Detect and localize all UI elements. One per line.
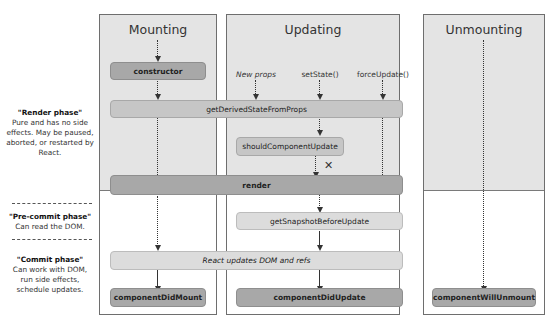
phase-desc-render: Pure and has no side effects. May be pau… bbox=[6, 118, 94, 157]
phase-desc-pre-commit: Can read the DOM. bbox=[15, 222, 85, 231]
column-unmounting: Unmounting bbox=[423, 14, 545, 315]
skip-update-icon: ✕ bbox=[324, 161, 333, 171]
phase-desc-commit: Can work with DOM, run side effects, sch… bbox=[13, 265, 87, 294]
phase-divider bbox=[12, 239, 92, 240]
connector bbox=[382, 80, 383, 94]
connector bbox=[157, 40, 158, 56]
connector bbox=[157, 78, 158, 94]
node-get-snapshot-before-update[interactable]: getSnapshotBeforeUpdate bbox=[236, 212, 403, 230]
connector bbox=[483, 40, 484, 286]
phase-label-render: "Render phase" Pure and has no side effe… bbox=[6, 108, 94, 158]
connector bbox=[382, 117, 383, 175]
connector bbox=[319, 80, 320, 94]
phase-label-commit: "Commit phase" Can work with DOM, run si… bbox=[6, 255, 94, 295]
node-constructor[interactable]: constructor bbox=[110, 62, 206, 80]
node-should-component-update[interactable]: shouldComponentUpdate bbox=[236, 137, 344, 156]
column-title-updating: Updating bbox=[227, 22, 399, 37]
node-get-derived-state-from-props[interactable]: getDerivedStateFromProps bbox=[110, 100, 403, 118]
phase-title-pre-commit: "Pre-commit phase" bbox=[6, 212, 94, 222]
phase-title-commit: "Commit phase" bbox=[6, 255, 94, 265]
arrow-icon bbox=[317, 130, 323, 136]
node-component-did-update[interactable]: componentDidUpdate bbox=[236, 288, 403, 307]
render-phase-area bbox=[424, 15, 544, 191]
phase-divider bbox=[12, 203, 92, 204]
connector bbox=[157, 196, 158, 246]
connector bbox=[319, 117, 320, 130]
node-react-updates-dom[interactable]: React updates DOM and refs bbox=[110, 251, 403, 270]
column-title-mounting: Mounting bbox=[100, 22, 216, 37]
node-render[interactable]: render bbox=[110, 175, 403, 195]
trigger-new-props: New props bbox=[236, 70, 276, 79]
trigger-force-update: forceUpdate() bbox=[357, 70, 409, 79]
connector bbox=[157, 270, 158, 286]
connector bbox=[319, 270, 320, 286]
phase-label-pre-commit: "Pre-commit phase" Can read the DOM. bbox=[6, 212, 94, 232]
node-component-will-unmount[interactable]: componentWillUnmount bbox=[432, 288, 536, 307]
connector bbox=[157, 117, 158, 175]
trigger-set-state: setState() bbox=[301, 70, 338, 79]
connector bbox=[255, 80, 256, 94]
column-title-unmounting: Unmounting bbox=[424, 22, 544, 37]
phase-title-render: "Render phase" bbox=[6, 108, 94, 118]
node-component-did-mount[interactable]: componentDidMount bbox=[110, 288, 206, 307]
connector bbox=[319, 231, 320, 245]
